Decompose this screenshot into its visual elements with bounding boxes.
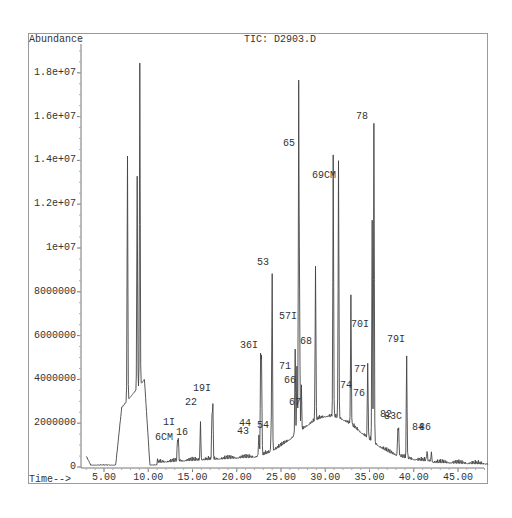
peak-label: 83C — [384, 412, 402, 422]
peak-label: 74 — [340, 381, 352, 391]
y-tick-label: 1.8e+07 — [34, 68, 76, 78]
peak-label: 44 — [239, 419, 251, 429]
peak-label: 19I — [193, 384, 211, 394]
y-tick-label: 0 — [70, 462, 76, 472]
x-tick-label: 40.00 — [398, 473, 430, 483]
peak-label: 71 — [279, 362, 291, 372]
peak-label: 76 — [353, 389, 365, 399]
y-tick-label: 8000000 — [34, 287, 76, 297]
peak-label: 77 — [354, 365, 366, 375]
y-tick-label: 4000000 — [34, 374, 76, 384]
peak-label: 79I — [387, 335, 405, 345]
peak-label: 67 — [289, 398, 301, 408]
peak-label: 65 — [283, 139, 295, 149]
y-tick-label: 1.2e+07 — [34, 199, 76, 209]
peak-label: 69CM — [312, 171, 336, 181]
peak-label: 78 — [356, 112, 368, 122]
x-tick-label: 35.00 — [354, 473, 386, 483]
x-tick-label: 5.00 — [88, 473, 120, 483]
peak-label: 86 — [419, 423, 431, 433]
x-tick-label: 15.00 — [177, 473, 209, 483]
peak-label: 66 — [284, 376, 296, 386]
y-tick-label: 1.6e+07 — [34, 112, 76, 122]
peak-label: 6CM — [155, 433, 173, 443]
x-tick-label: 20.00 — [221, 473, 253, 483]
peak-label: 68 — [300, 337, 312, 347]
peak-label: 36I — [240, 341, 258, 351]
x-tick-label: 10.00 — [132, 473, 164, 483]
x-tick-label: 30.00 — [309, 473, 341, 483]
peak-label: 54 — [257, 421, 269, 431]
x-tick-label: 25.00 — [265, 473, 297, 483]
y-tick-label: 1.4e+07 — [34, 155, 76, 165]
chromatogram-plot — [0, 0, 512, 518]
peak-label: 57I — [279, 312, 297, 322]
peak-label: 16 — [176, 428, 188, 438]
peak-label: 53 — [257, 258, 269, 268]
peak-label: 70I — [351, 320, 369, 330]
y-tick-label: 2000000 — [34, 418, 76, 428]
y-tick-label: 6000000 — [34, 331, 76, 341]
y-tick-label: 1e+07 — [46, 243, 76, 253]
peak-label: 22 — [185, 398, 197, 408]
x-tick-label: 45.00 — [442, 473, 474, 483]
peak-label: 1I — [163, 418, 175, 428]
